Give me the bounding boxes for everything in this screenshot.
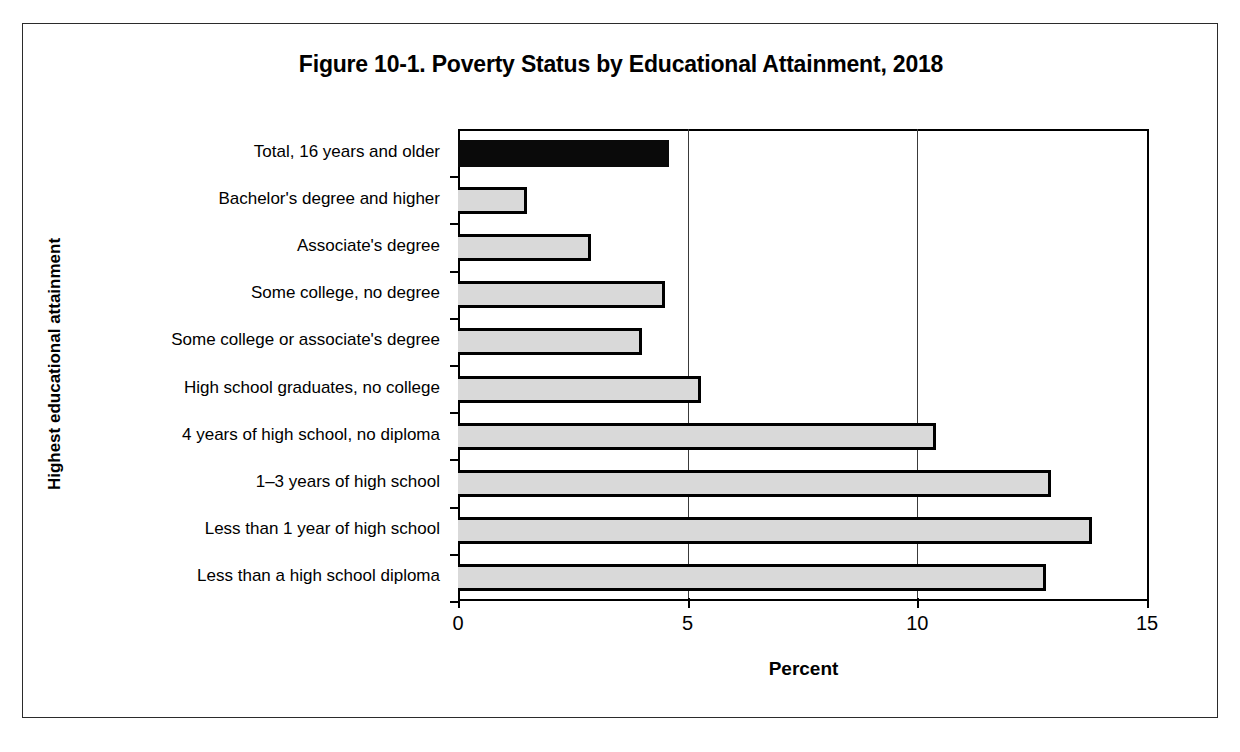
category-label: Some college or associate's degree [171, 330, 440, 350]
bar [458, 281, 665, 308]
x-tick-label: 10 [906, 612, 928, 635]
y-tick-mark [450, 176, 459, 178]
category-label: Total, 16 years and older [254, 142, 440, 162]
x-tick-mark [1147, 598, 1149, 608]
y-tick-mark [450, 271, 459, 273]
plot-border-top [458, 129, 1149, 131]
plot-area [458, 129, 1149, 601]
y-tick-mark [450, 412, 459, 414]
y-tick-mark [450, 318, 459, 320]
bar [458, 470, 1051, 497]
x-tick-label: 0 [452, 612, 463, 635]
category-label: Bachelor's degree and higher [218, 189, 440, 209]
category-label: Associate's degree [297, 236, 440, 256]
y-tick-mark [450, 223, 459, 225]
category-label: 4 years of high school, no diploma [182, 425, 440, 445]
bar [458, 376, 701, 403]
category-label: High school graduates, no college [184, 378, 440, 398]
category-label-layer: Total, 16 years and olderBachelor's degr… [23, 129, 448, 601]
plot-border-bottom [458, 599, 1149, 601]
figure-frame: Figure 10-1. Poverty Status by Education… [22, 23, 1218, 718]
bar [458, 234, 591, 261]
y-tick-mark [450, 507, 459, 509]
x-axis-title: Percent [458, 658, 1149, 680]
bar [458, 328, 642, 355]
x-tick-label: 15 [1136, 612, 1158, 635]
category-label: Some college, no degree [251, 283, 440, 303]
x-tick-mark [458, 598, 460, 608]
category-label: Less than 1 year of high school [205, 519, 440, 539]
category-label: Less than a high school diploma [197, 566, 440, 586]
x-tick-mark [688, 598, 690, 608]
chart-title: Figure 10-1. Poverty Status by Education… [23, 51, 1219, 78]
bar [458, 140, 669, 167]
y-tick-mark [450, 365, 459, 367]
x-tick-mark [917, 598, 919, 608]
bar [458, 517, 1092, 544]
bar [458, 423, 936, 450]
category-label: 1–3 years of high school [256, 472, 440, 492]
y-tick-mark [450, 459, 459, 461]
bar [458, 564, 1046, 591]
y-tick-mark [450, 554, 459, 556]
x-tick-label-layer: 051015 [458, 612, 1149, 646]
bar [458, 187, 527, 214]
plot-border-right [1147, 129, 1149, 601]
x-tick-label: 5 [682, 612, 693, 635]
